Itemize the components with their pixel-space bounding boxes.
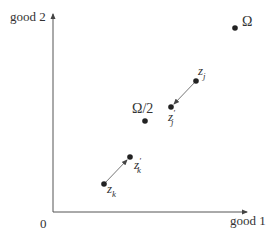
arrow-zj-to-zj-prime: [174, 81, 196, 104]
zk-label: zk: [107, 182, 116, 195]
point-omega: [232, 25, 238, 31]
point-zk: [101, 181, 107, 187]
omega-label: Ω: [242, 15, 252, 29]
edgeworth-diagram: [0, 0, 274, 238]
point-omega-half: [142, 118, 148, 124]
point-zk-prime: [127, 154, 133, 160]
zk-prime-label: z′k: [134, 158, 141, 171]
omega-half-label: Ω/2: [132, 102, 153, 116]
zj-label: zj: [198, 64, 206, 77]
origin-label: 0: [40, 217, 47, 230]
zj-label-sub: j: [203, 71, 206, 81]
zj-prime-label: z′j: [168, 110, 174, 123]
y-axis-label: good 2: [10, 10, 46, 23]
point-zj: [193, 78, 199, 84]
zk-label-sub: k: [112, 189, 116, 199]
zj-prime-label-sub: j: [171, 117, 174, 127]
zk-prime-label-sub: k: [137, 165, 141, 175]
x-axis-label: good 1: [230, 214, 266, 227]
